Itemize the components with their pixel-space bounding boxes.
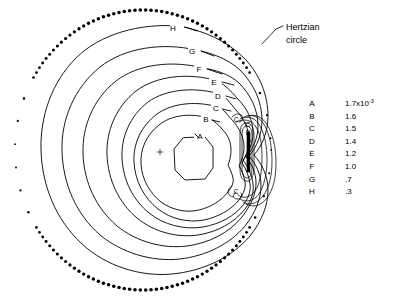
contour-label-b: B [203, 115, 208, 124]
hertzian-circle-dot [77, 27, 80, 30]
hertzian-circle-dot [205, 270, 208, 273]
hertzian-circle-dot [73, 267, 76, 270]
hertzian-circle-dot [19, 189, 21, 191]
contour-path-f [83, 64, 258, 247]
hertzian-circle-dot [196, 22, 199, 25]
hertzian-circle-dot [48, 244, 51, 247]
contour-label-c: C [213, 104, 219, 113]
hertzian-circle-dot [235, 244, 238, 247]
hertzian-circle-dot [170, 285, 174, 289]
hertzian-label-line1: Hertzian [286, 22, 320, 32]
legend-value: 1.2 [345, 149, 357, 158]
contour-leader-d [226, 96, 236, 99]
contour-leader-f [207, 69, 222, 74]
hertzian-circle-dot [170, 12, 174, 16]
contour-path-e [107, 76, 253, 236]
hertzian-circle-dot [60, 41, 63, 44]
hertzian-circle-dot [92, 277, 95, 280]
hertzian-circle-dot [15, 167, 17, 169]
hertzian-circle-dot [245, 231, 248, 234]
contour-path-b [141, 115, 233, 211]
hertzian-circle-dot [238, 240, 241, 243]
hertzian-circle-dot [82, 24, 85, 27]
hertzian-circle-dot [176, 13, 180, 17]
hertzian-circle-dot [123, 10, 127, 14]
legend-value: .7 [345, 175, 352, 184]
contour-label-b-sliver: B [246, 129, 250, 136]
hertzian-circle-dot [139, 288, 143, 292]
contour-label-c-outer: C [234, 116, 239, 123]
hertzian-circle-dot [254, 216, 257, 219]
contour-label-c-sliver: C [246, 121, 251, 128]
hertzian-circle-dot [196, 275, 199, 278]
hertzian-circle-dot [210, 267, 213, 270]
hertzian-circle-dot [52, 48, 55, 51]
hertzian-circle-dot [186, 17, 189, 20]
hertzian-circle-dot [186, 279, 189, 282]
legend-key: F [310, 162, 315, 171]
hertzian-circle-dot [242, 62, 245, 65]
hertzian-circle-dot [41, 236, 44, 239]
contour-figure: H G F E D C B A C C B A C Hertzian circl… [0, 0, 396, 300]
hertzian-circle-dot [107, 13, 111, 17]
hertzian-circle-dot [149, 8, 153, 12]
hertzian-circle-dot [64, 37, 67, 40]
contour-leader-h [185, 27, 197, 31]
hertzian-circle-dot [181, 15, 185, 19]
hertzian-circle-dot [144, 288, 148, 292]
hertzian-circle-dot [60, 256, 63, 259]
hertzian-circle-dot [82, 272, 85, 275]
hertzian-circle-dot [68, 33, 71, 36]
hertzian-circle-dot [181, 281, 185, 285]
legend: A1.7x10-3B1.6C1.5D1.4E1.2F1.0G.7H.3 [309, 98, 374, 196]
contour-label-c-lower: C [234, 188, 239, 195]
hertzian-circle-dot [48, 53, 51, 56]
center-mark-icon [157, 149, 163, 155]
hertzian-circle-dot [191, 277, 194, 280]
hertzian-circle-dot [64, 260, 67, 263]
legend-key: E [309, 149, 314, 158]
hertzian-circle-dot [68, 263, 71, 266]
hertzian-circle-dot [45, 57, 48, 60]
hertzian-circle-dot [235, 53, 238, 56]
hertzian-circle-dot [165, 286, 169, 290]
legend-key: D [309, 137, 315, 146]
hertzian-circle-dot [149, 288, 153, 292]
hertzian-circle-dot [23, 97, 25, 99]
hertzian-circle-dot [128, 287, 132, 291]
legend-key: H [309, 187, 315, 196]
hertzian-circle-dot [87, 22, 90, 25]
hertzian-circle-dot [45, 240, 48, 243]
hertzian-circle-dot [38, 231, 41, 234]
hertzian-circle-dot [56, 44, 59, 47]
hertzian-annotation: Hertzian circle [262, 22, 320, 45]
hertzian-circle-dot [133, 8, 137, 12]
hertzian-circle-dot [155, 9, 159, 13]
hertzian-circle-dot [248, 71, 251, 74]
hertzian-circle-dot [35, 71, 38, 74]
hertzian-circle-dot [87, 275, 90, 278]
hertzian-circle-dot [139, 8, 143, 12]
hertzian-circle-dot [242, 236, 245, 239]
legend-value: 1.7x10-3 [345, 98, 374, 108]
hertzian-leader-line [262, 26, 283, 44]
hertzian-circle-dot [17, 120, 19, 122]
hertzian-circle-dot [97, 279, 100, 282]
contour-label-g: G [189, 47, 195, 56]
legend-key: C [309, 124, 315, 133]
hertzian-circle-dot [92, 19, 95, 22]
hertzian-circle-dot [210, 30, 213, 33]
contour-leader-g [201, 51, 214, 56]
hertzian-circle-dot [214, 263, 217, 266]
hertzian-circle-dot [56, 252, 59, 255]
hertzian-circle-dot [144, 8, 148, 12]
contour-label-e: E [211, 78, 216, 87]
hertzian-circle-dot [107, 283, 111, 287]
hertzian-circle-dot [117, 11, 121, 15]
contour-label-f: F [197, 65, 202, 74]
hertzian-circle-dot [248, 226, 251, 229]
hertzian-circle-dot [259, 92, 261, 94]
hertzian-circle-dot [201, 272, 204, 275]
hertzian-circle-dot [32, 76, 35, 79]
hertzian-circle-dot [14, 143, 16, 145]
